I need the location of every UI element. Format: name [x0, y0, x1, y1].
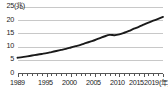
- x-tick-label-2010: 2010: [110, 79, 125, 86]
- gridlines: [18, 8, 164, 61]
- y-axis-unit-label: (兆): [14, 2, 25, 9]
- y-tick-label-25: 25: [0, 2, 14, 9]
- y-tick-label-10: 10: [0, 42, 14, 49]
- x-axis-unit-label: (年): [159, 79, 168, 86]
- y-tick-label-20: 20: [0, 16, 14, 23]
- x-tick-label-2019: 2019: [144, 79, 159, 86]
- x-tick-label-2015: 2015: [129, 79, 144, 86]
- line-chart: 25 (兆) 20 15 10 5 0 1989 1995 2000 2005 …: [0, 0, 168, 90]
- chart-plot-area: [0, 0, 168, 90]
- y-tick-label-15: 15: [0, 29, 14, 36]
- x-tick-label-2005: 2005: [86, 79, 101, 86]
- x-tick-label-2000: 2000: [62, 79, 77, 86]
- x-tick-label-1989: 1989: [10, 79, 25, 86]
- y-tick-label-0: 0: [0, 69, 14, 76]
- data-series-line: [18, 17, 164, 58]
- y-tick-label-5: 5: [0, 55, 14, 62]
- x-tick-label-1995: 1995: [38, 79, 53, 86]
